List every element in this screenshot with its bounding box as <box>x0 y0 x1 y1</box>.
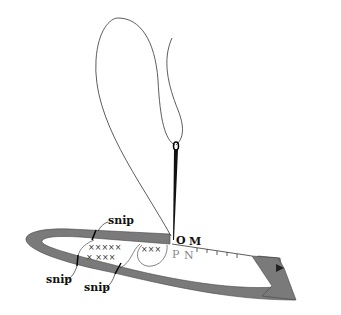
label-point-p: P <box>172 248 180 261</box>
thread-tail <box>167 38 183 145</box>
fabric-band <box>26 229 295 300</box>
thread-loop <box>96 18 175 236</box>
label-snip-left: snip <box>46 273 72 286</box>
label-point-n: N <box>184 249 194 262</box>
label-point-m: M <box>189 235 201 248</box>
svg-text:×××××: ××××× <box>88 243 122 252</box>
svg-text:×××: ××× <box>141 245 161 254</box>
sewing-diagram: ××××× × ××× ××× snip snip snip O M P N <box>0 0 341 315</box>
needle-eye <box>174 142 179 150</box>
snip-top-arrow <box>98 222 108 231</box>
stitch-region-mid <box>120 244 140 268</box>
cross-stitches: ××××× × ××× ××× <box>86 243 161 262</box>
label-point-o: O <box>176 234 186 247</box>
svg-text:× ×××: × ××× <box>86 253 115 262</box>
label-snip-top: snip <box>108 214 134 227</box>
needle <box>173 150 178 240</box>
